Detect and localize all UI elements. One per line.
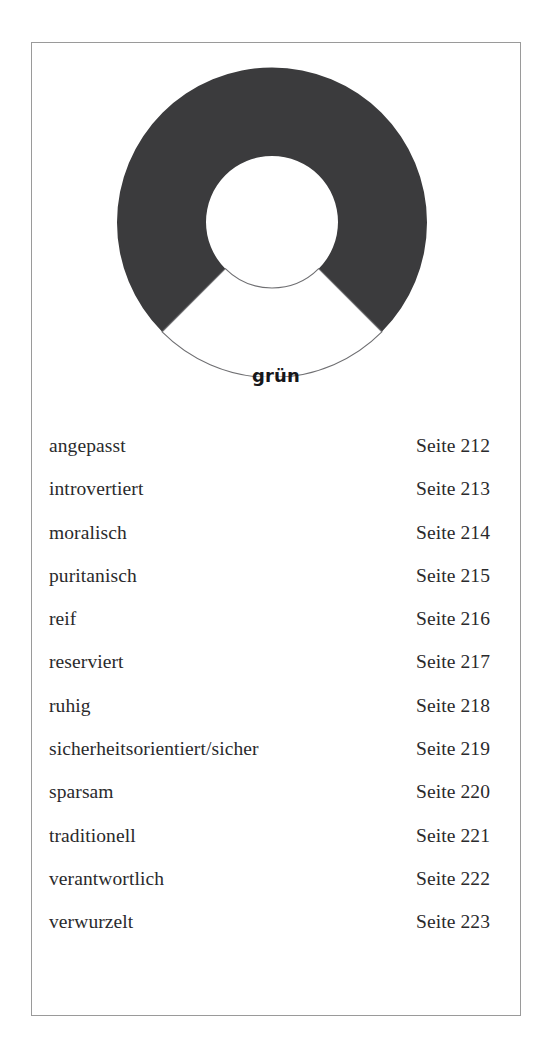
list-item[interactable]: reif Seite 216 (32, 597, 520, 640)
list-item-term: angepasst (49, 424, 126, 467)
list-item-page: Seite 212 (416, 424, 490, 467)
list-item-term: ruhig (49, 684, 91, 727)
list-item-term: sicherheitsorientiert/sicher (49, 727, 259, 770)
donut-center-label: grün (32, 365, 520, 387)
list-item-term: verantwortlich (49, 857, 164, 900)
list-item-page: Seite 217 (416, 640, 490, 683)
list-item-term: puritanisch (49, 554, 137, 597)
list-item-page: Seite 215 (416, 554, 490, 597)
list-item-page: Seite 216 (416, 597, 490, 640)
list-item[interactable]: sicherheitsorientiert/sicher Seite 219 (32, 727, 520, 770)
donut-chart-svg (117, 67, 427, 377)
list-item[interactable]: introvertiert Seite 213 (32, 467, 520, 510)
list-item-page: Seite 218 (416, 684, 490, 727)
list-item[interactable]: moralisch Seite 214 (32, 511, 520, 554)
list-item-page: Seite 223 (416, 900, 490, 943)
list-item[interactable]: puritanisch Seite 215 (32, 554, 520, 597)
list-item-page: Seite 219 (416, 727, 490, 770)
list-item-term: introvertiert (49, 467, 143, 510)
list-item-term: reserviert (49, 640, 124, 683)
list-item-page: Seite 222 (416, 857, 490, 900)
list-item[interactable]: reserviert Seite 217 (32, 640, 520, 683)
list-item-term: reif (49, 597, 76, 640)
page-frame: grün angepasst Seite 212 introvertiert S… (31, 42, 521, 1016)
list-item-term: verwurzelt (49, 900, 133, 943)
list-item-term: sparsam (49, 770, 114, 813)
index-list: angepasst Seite 212 introvertiert Seite … (32, 424, 520, 944)
list-item-term: traditionell (49, 814, 136, 857)
list-item-page: Seite 213 (416, 467, 490, 510)
list-item-term: moralisch (49, 511, 127, 554)
list-item[interactable]: ruhig Seite 218 (32, 684, 520, 727)
donut-chart: grün (32, 43, 520, 391)
list-item-page: Seite 220 (416, 770, 490, 813)
list-item-page: Seite 214 (416, 511, 490, 554)
list-item[interactable]: verwurzelt Seite 223 (32, 900, 520, 943)
list-item-page: Seite 221 (416, 814, 490, 857)
list-item[interactable]: angepasst Seite 212 (32, 424, 520, 467)
list-item[interactable]: traditionell Seite 221 (32, 814, 520, 857)
list-item[interactable]: verantwortlich Seite 222 (32, 857, 520, 900)
list-item[interactable]: sparsam Seite 220 (32, 770, 520, 813)
